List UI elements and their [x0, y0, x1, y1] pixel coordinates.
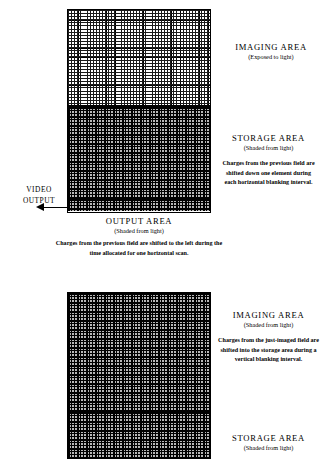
- bottom-imaging-area-subtitle: (Shaded from light): [213, 321, 324, 329]
- bottom-storage-region: [68, 412, 210, 459]
- top-storage-region: [68, 107, 210, 197]
- top-output-area-title: OUTPUT AREA: [49, 216, 229, 227]
- top-imaging-area-subtitle: (Exposed to light): [218, 53, 324, 61]
- top-storage-area-title: STORAGE AREA: [213, 133, 324, 144]
- bottom-storage-area-label: STORAGE AREA (Shaded from light): [213, 433, 324, 452]
- top-storage-area-subtitle: (Shaded from light): [213, 144, 324, 152]
- video-output-arrow-head: [36, 203, 44, 211]
- bottom-imaging-area-label: IMAGING AREA (Shaded from light) Charges…: [213, 310, 324, 364]
- top-output-area-description: Charges from the previous field are shif…: [49, 239, 229, 257]
- top-output-area-caption: OUTPUT AREA (Shaded from light) Charges …: [49, 216, 229, 258]
- bottom-storage-area-subtitle: (Shaded from light): [213, 444, 324, 452]
- bottom-imaging-region: [68, 293, 210, 410]
- top-ccd-array: [67, 9, 211, 213]
- bottom-storage-area-title: STORAGE AREA: [213, 433, 324, 444]
- top-imaging-region: [68, 10, 210, 105]
- top-imaging-area-title: IMAGING AREA: [218, 42, 324, 53]
- ccd-frame-transfer-figure: IMAGING AREA (Exposed to light) STORAGE …: [0, 0, 324, 459]
- bottom-ccd-array: [67, 292, 211, 459]
- top-storage-area-label: STORAGE AREA (Shaded from light) Charges…: [213, 133, 324, 187]
- bottom-imaging-area-description: Charges from the just-imaged field are s…: [213, 336, 324, 363]
- top-storage-area-description: Charges from the previous field are shif…: [213, 159, 324, 186]
- top-imaging-area-label: IMAGING AREA (Exposed to light): [218, 42, 324, 61]
- top-output-region: [68, 199, 210, 211]
- bottom-imaging-area-title: IMAGING AREA: [213, 310, 324, 321]
- video-output-arrow-line: [43, 207, 69, 209]
- top-output-area-subtitle: (Shaded from light): [49, 227, 229, 235]
